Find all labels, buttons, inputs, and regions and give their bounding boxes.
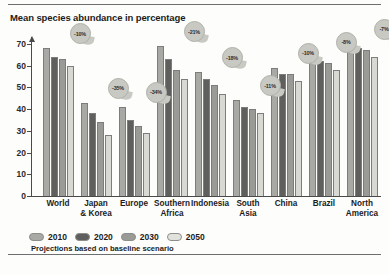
bottom-divider xyxy=(8,254,381,255)
bar xyxy=(233,100,240,196)
bar xyxy=(195,72,202,196)
bar xyxy=(89,113,96,196)
bar-group-bars xyxy=(309,33,340,196)
legend-item[interactable]: 2030 xyxy=(121,232,159,242)
bar xyxy=(309,57,316,196)
bar-group-bars xyxy=(233,33,264,196)
bar xyxy=(317,61,324,196)
bar xyxy=(135,126,142,196)
x-axis-label-line: Asia xyxy=(223,209,273,219)
y-tick-label: 40 xyxy=(17,104,26,114)
y-tick-mark xyxy=(27,109,31,110)
y-tick-mark xyxy=(27,153,31,154)
bar xyxy=(347,44,354,196)
bar xyxy=(325,63,332,196)
x-axis-label-line: Africa xyxy=(147,209,197,219)
callout-label: -7% xyxy=(380,26,389,32)
x-axis-line xyxy=(31,196,381,197)
bar xyxy=(51,57,58,196)
bar xyxy=(43,48,50,196)
bar xyxy=(157,46,164,196)
bar xyxy=(105,135,112,196)
y-tick-mark xyxy=(27,174,31,175)
bar xyxy=(203,79,210,196)
legend-label: 2020 xyxy=(94,232,113,242)
bar-group xyxy=(347,33,378,196)
bar-group-bars xyxy=(271,33,302,196)
chart-title: Mean species abundance in percentage xyxy=(10,12,185,23)
legend-item[interactable]: 2050 xyxy=(167,232,205,242)
bar xyxy=(271,68,278,196)
bar-group xyxy=(119,33,150,196)
top-divider xyxy=(8,4,381,5)
x-axis-label-line: America xyxy=(337,209,387,219)
bar-group-bars xyxy=(43,33,74,196)
legend-swatch xyxy=(167,233,182,241)
bar xyxy=(143,133,150,196)
y-tick-label: 50 xyxy=(17,82,26,92)
bar xyxy=(241,107,248,196)
bar xyxy=(59,59,66,196)
y-axis-arrow xyxy=(29,36,35,42)
bar-group-bars xyxy=(119,33,150,196)
y-tick-mark xyxy=(27,66,31,67)
y-tick-label: 60 xyxy=(17,61,26,71)
chart-figure: Mean species abundance in percentage 010… xyxy=(0,0,389,275)
legend-item[interactable]: 2010 xyxy=(29,232,67,242)
legend-swatch xyxy=(121,233,136,241)
x-axis-label: NorthAmerica xyxy=(337,199,387,219)
bar-group xyxy=(271,33,302,196)
bar-group xyxy=(195,33,226,196)
legend-swatch xyxy=(29,233,44,241)
bar xyxy=(295,81,302,196)
legend-swatch xyxy=(75,233,90,241)
bar xyxy=(181,79,188,196)
bar-group xyxy=(43,33,74,196)
chart-legend: 2010202020302050 xyxy=(29,232,205,242)
y-tick-mark xyxy=(27,44,31,45)
y-axis-line xyxy=(31,37,32,196)
bar xyxy=(355,48,362,196)
bar-group-bars xyxy=(81,33,112,196)
bar xyxy=(249,109,256,196)
legend-item[interactable]: 2020 xyxy=(75,232,113,242)
x-axis-label-line: & Korea xyxy=(71,209,121,219)
bar xyxy=(219,94,226,196)
bar xyxy=(371,57,378,196)
chart-footnote: Projections based on baseline scenario xyxy=(31,244,174,253)
bar xyxy=(211,85,218,196)
bar xyxy=(67,66,74,196)
bar-group xyxy=(157,33,188,196)
y-tick-label: 0 xyxy=(21,191,26,201)
bar xyxy=(173,70,180,196)
plot-area: 010203040506070 -10%-35%-34%-21%-18%-11%… xyxy=(31,33,381,196)
y-tick-mark xyxy=(27,131,31,132)
y-tick-mark xyxy=(27,87,31,88)
legend-label: 2050 xyxy=(186,232,205,242)
x-axis-labels: WorldJapan& KoreaEuropeSouthernAfricaInd… xyxy=(31,199,381,225)
bar xyxy=(333,70,340,196)
y-tick-label: 70 xyxy=(17,39,26,49)
y-tick-label: 20 xyxy=(17,148,26,158)
bar xyxy=(257,113,264,196)
bar xyxy=(287,74,294,196)
bar xyxy=(363,50,370,196)
x-axis-label-line: North xyxy=(337,199,387,209)
bar-group-bars xyxy=(347,33,378,196)
bar xyxy=(81,103,88,196)
bar xyxy=(97,122,104,196)
y-tick-label: 10 xyxy=(17,169,26,179)
y-tick-mark xyxy=(27,196,31,197)
bar xyxy=(127,120,134,196)
bar-group xyxy=(309,33,340,196)
bar-group xyxy=(81,33,112,196)
legend-label: 2010 xyxy=(48,232,67,242)
bar-group-bars xyxy=(157,33,188,196)
legend-label: 2030 xyxy=(140,232,159,242)
bar xyxy=(119,107,126,196)
bar xyxy=(279,74,286,196)
bar xyxy=(165,59,172,196)
bar-group xyxy=(233,33,264,196)
y-tick-label: 30 xyxy=(17,126,26,136)
bar-group-bars xyxy=(195,33,226,196)
